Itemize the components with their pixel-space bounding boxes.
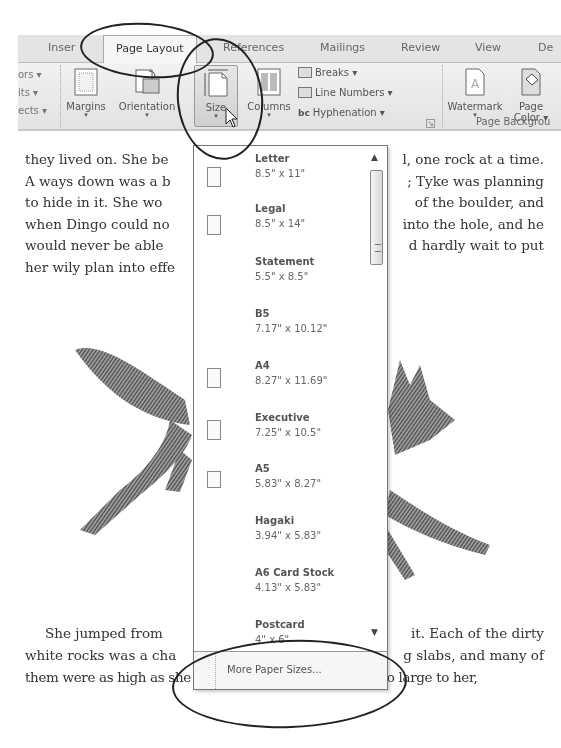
paper-size-dims: 3.94" x 5.83" [255, 530, 321, 541]
hyphenation-button[interactable]: bc Hyphenation ▾ [298, 107, 385, 118]
paper-size-dims: 5.5" x 8.5" [255, 271, 308, 282]
dropdown-arrow-icon: ▾ [66, 111, 106, 119]
text-line: l, one rock at a time. [392, 149, 544, 171]
paper-size-letter[interactable]: Letter 8.5" x 11" [194, 153, 366, 199]
theme-fonts-button[interactable]: its ▾ [18, 87, 38, 98]
scroll-up-arrow-icon[interactable]: ▲ [371, 152, 378, 162]
dropdown-scrollbar[interactable]: ▲ ▼ [369, 152, 383, 637]
more-paper-sizes-button[interactable]: More Paper Sizes... [194, 651, 387, 689]
scroll-down-arrow-icon[interactable]: ▼ [371, 627, 378, 637]
paper-size-statement[interactable]: Statement 5.5" x 8.5" [194, 256, 366, 302]
paper-size-dims: 4" x 6" [255, 634, 289, 645]
paper-size-name: B5 [255, 308, 270, 319]
page-icon [207, 167, 221, 187]
page-background-group-label: Page Backgrou [476, 116, 550, 127]
page-color-button[interactable]: Page Color ▾ [508, 67, 554, 123]
document-line: it. Each of the dirty [392, 623, 544, 645]
paper-size-dims: 4.13" x 5.83" [255, 582, 321, 593]
paper-size-dims: 8.5" x 14" [255, 218, 305, 229]
tab-page-layout[interactable]: Page Layout [103, 35, 197, 64]
tab-references[interactable]: References [223, 41, 284, 54]
paper-size-dims: 7.17" x 10.12" [255, 323, 327, 334]
line-numbers-button[interactable]: Line Numbers ▾ [298, 87, 393, 98]
paper-size-dims: 8.27" x 11.69" [255, 375, 327, 386]
page-setup-dialog-launcher[interactable]: ↘ [426, 119, 435, 128]
tab-insert[interactable]: Inser [48, 41, 75, 54]
ribbon-tab-bar: Inser Page Layout References Mailings Re… [18, 35, 561, 63]
watermark-icon: A [461, 67, 489, 97]
paper-size-name: Executive [255, 412, 310, 423]
text-line: would never be able [25, 235, 175, 257]
document-line: g slabs, and many of [392, 645, 544, 667]
paper-size-name: A4 [255, 360, 270, 371]
dropdown-arrow-icon: ▾ [116, 111, 178, 119]
text-line: when Dingo could no [25, 214, 175, 236]
document-line: white rocks was a cha [25, 645, 176, 667]
paper-size-name: Statement [255, 256, 314, 267]
dropdown-arrow-icon: ▾ [246, 111, 292, 119]
paper-size-name: Hagaki [255, 515, 294, 526]
paper-size-name: Letter [255, 153, 289, 164]
tab-view[interactable]: View [475, 41, 501, 54]
paper-size-dims: 5.83" x 8.27" [255, 478, 321, 489]
paper-size-legal[interactable]: Legal 8.5" x 14" [194, 203, 366, 249]
paper-size-a5[interactable]: A5 5.83" x 8.27" [194, 463, 366, 509]
breaks-label: Breaks ▾ [315, 67, 357, 78]
svg-text:A: A [471, 77, 480, 91]
text-line: ; Tyke was planning [392, 171, 544, 193]
paper-size-executive[interactable]: Executive 7.25" x 10.5" [194, 412, 366, 458]
text-line: they lived on. She be [25, 149, 175, 171]
page-icon [207, 420, 221, 440]
breaks-icon [298, 67, 312, 78]
text-line: A ways down was a b [25, 171, 175, 193]
hyphenation-icon: bc [298, 108, 310, 118]
orientation-button[interactable]: Orientation ▾ [116, 67, 178, 119]
paper-size-b5[interactable]: B5 7.17" x 10.12" [194, 308, 366, 354]
paint-bucket-icon [517, 67, 545, 97]
paper-size-dims: 8.5" x 11" [255, 168, 305, 179]
watermark-button[interactable]: A Watermark ▾ [446, 67, 504, 119]
theme-effects-button[interactable]: ects ▾ [18, 105, 47, 116]
line-numbers-icon [298, 87, 312, 98]
paper-size-a6-card-stock[interactable]: A6 Card Stock 4.13" x 5.83" [194, 567, 366, 613]
mouse-pointer-icon [225, 107, 239, 129]
scrollbar-thumb[interactable] [370, 170, 383, 265]
group-separator [442, 65, 443, 127]
text-line: of the boulder, and [392, 192, 544, 214]
columns-button[interactable]: Columns ▾ [246, 67, 292, 119]
more-paper-sizes-label: More Paper Sizes... [227, 664, 322, 675]
scrollbar-grip-icon [375, 244, 381, 252]
text-line: to hide in it. She wo [25, 192, 175, 214]
paper-size-dims: 7.25" x 10.5" [255, 427, 321, 438]
paper-size-hagaki[interactable]: Hagaki 3.94" x 5.83" [194, 515, 366, 561]
page-size-icon [202, 68, 230, 98]
line-numbers-label: Line Numbers ▾ [315, 87, 393, 98]
paper-size-dropdown: Letter 8.5" x 11" Legal 8.5" x 14" State… [193, 145, 388, 690]
page-icon [207, 471, 221, 488]
tab-developer[interactable]: De [538, 41, 553, 54]
group-separator [60, 65, 61, 127]
ribbon: Inser Page Layout References Mailings Re… [18, 35, 561, 131]
hyphenation-label: Hyphenation ▾ [313, 107, 385, 118]
tab-mailings[interactable]: Mailings [320, 41, 365, 54]
text-line: her wily plan into effe [25, 257, 175, 279]
margins-button[interactable]: Margins ▾ [66, 67, 106, 119]
document-paragraph-left: they lived on. She be A ways down was a … [25, 149, 175, 278]
orientation-icon [133, 67, 161, 97]
paper-size-name: A6 Card Stock [255, 567, 334, 578]
margins-icon [72, 67, 100, 97]
page-icon [207, 215, 221, 235]
page-color-label-1: Page [508, 101, 554, 112]
menu-icon-gutter [194, 652, 216, 689]
paper-size-name: Postcard [255, 619, 305, 630]
document-line: She jumped from [45, 623, 163, 645]
document-paragraph-right: l, one rock at a time. ; Tyke was planni… [392, 149, 544, 257]
theme-colors-button[interactable]: ors ▾ [18, 69, 42, 80]
paper-size-name: A5 [255, 463, 270, 474]
ribbon-panel: ors ▾ its ▾ ects ▾ Margins ▾ Orientation… [18, 63, 561, 131]
text-line: d hardly wait to put [392, 235, 544, 257]
columns-icon [255, 67, 283, 97]
tab-review[interactable]: Review [401, 41, 440, 54]
breaks-button[interactable]: Breaks ▾ [298, 67, 357, 78]
paper-size-a4[interactable]: A4 8.27" x 11.69" [194, 360, 366, 406]
